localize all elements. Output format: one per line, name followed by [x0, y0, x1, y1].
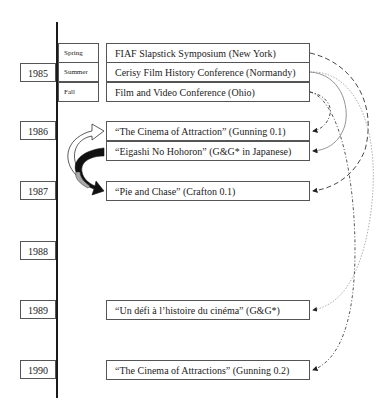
black-curved-arrow-icon [75, 148, 104, 195]
connector-ohio-to-gunning01 [310, 92, 330, 131]
connector-cerisy-to-undefi [310, 72, 373, 310]
connector-cerisy-to-eigashi [310, 72, 346, 151]
connector-layer [0, 0, 381, 418]
connector-ohio-to-gunning02 [310, 92, 355, 370]
